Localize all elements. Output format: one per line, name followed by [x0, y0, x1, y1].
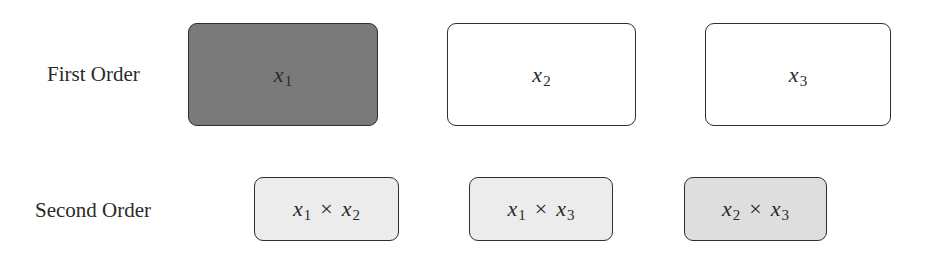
first-order-box-x2: x2	[447, 23, 636, 126]
term-x2: x2	[532, 64, 550, 86]
second-order-box-x2-x3: x2×x3	[684, 177, 827, 241]
first-order-label: First Order	[47, 64, 140, 85]
term-x1-times-x2: x1×x2	[293, 198, 360, 220]
term-x3: x3	[789, 64, 807, 86]
term-x2-times-x3: x2×x3	[722, 198, 789, 220]
first-order-box-x3: x3	[705, 23, 891, 126]
times-icon: ×	[535, 196, 547, 221]
first-order-box-x1: x1	[188, 23, 378, 126]
times-icon: ×	[320, 196, 332, 221]
second-order-label: Second Order	[35, 200, 151, 221]
term-x1-times-x3: x1×x3	[508, 198, 575, 220]
term-x1: x1	[274, 64, 292, 86]
times-icon: ×	[749, 196, 761, 221]
second-order-box-x1-x2: x1×x2	[254, 177, 399, 241]
second-order-box-x1-x3: x1×x3	[469, 177, 613, 241]
